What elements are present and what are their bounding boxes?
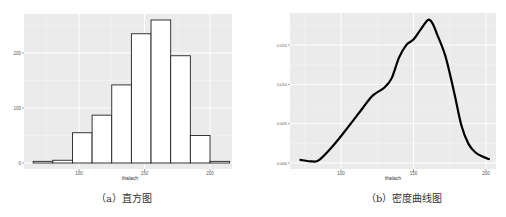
- density-y-axis: 0.0000.0050.0100.015: [277, 43, 290, 166]
- svg-text:200: 200: [482, 171, 490, 176]
- histogram-chart: 0100200 100150200 thalach: [0, 0, 253, 185]
- svg-text:0: 0: [18, 161, 21, 166]
- svg-text:200: 200: [206, 171, 214, 176]
- histogram-bar: [151, 20, 171, 163]
- histogram-bar: [190, 136, 210, 164]
- svg-text:100: 100: [337, 171, 345, 176]
- svg-text:150: 150: [141, 171, 149, 176]
- histogram-bar: [131, 34, 151, 163]
- density-x-axis: 100150200: [337, 169, 490, 176]
- svg-text:200: 200: [13, 51, 21, 56]
- histogram-bar: [92, 115, 112, 163]
- svg-text:0.010: 0.010: [277, 82, 288, 87]
- density-panel: [290, 13, 496, 169]
- svg-text:100: 100: [75, 171, 83, 176]
- histogram-bar: [33, 161, 53, 163]
- svg-text:0.015: 0.015: [277, 43, 288, 48]
- caption-density: （b）密度曲线图: [366, 190, 442, 205]
- histogram-x-axis: 100150200: [75, 169, 214, 176]
- svg-text:150: 150: [410, 171, 418, 176]
- svg-text:0.005: 0.005: [277, 121, 288, 126]
- density-chart: 0.0000.0050.0100.015 100150200 thalach: [253, 0, 506, 185]
- histogram-x-label: thalach: [122, 175, 138, 181]
- density-x-label: thalach: [385, 175, 401, 181]
- histogram-bar: [171, 56, 191, 163]
- histogram-bar: [72, 133, 92, 163]
- histogram-y-axis: 0100200: [13, 51, 24, 166]
- histogram-bar: [53, 160, 73, 163]
- caption-histogram: （a）直方图: [96, 190, 152, 205]
- histogram-bar: [210, 161, 230, 163]
- svg-text:100: 100: [13, 106, 21, 111]
- svg-text:0.000: 0.000: [277, 161, 288, 166]
- histogram-bar: [112, 85, 132, 163]
